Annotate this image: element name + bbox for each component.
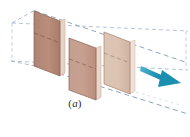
wavefront-diagram — [0, 0, 190, 137]
figure-caption: (a) — [0, 97, 150, 109]
panel-middle-front-face — [69, 38, 96, 100]
panel-middle-side-face — [96, 46, 101, 100]
figure-caption-close: ) — [78, 97, 82, 109]
wavefront-sheet-middle — [69, 38, 101, 100]
dashed-diagonal-bottom-left — [11, 61, 35, 66]
arrow-head — [158, 70, 181, 87]
wavefront-sheet-front — [104, 32, 135, 94]
dashed-diagonal-top-left — [12, 10, 35, 23]
wavefront-sheet-rear — [34, 11, 65, 76]
panel-rear-front-face — [34, 11, 60, 76]
figure-container: (a) — [0, 0, 190, 137]
panel-rear-side-face — [60, 19, 65, 76]
panel-front-front-face — [104, 32, 130, 94]
dashed-guide-left-diagonals — [11, 10, 35, 66]
panel-front-side-face — [130, 40, 135, 94]
